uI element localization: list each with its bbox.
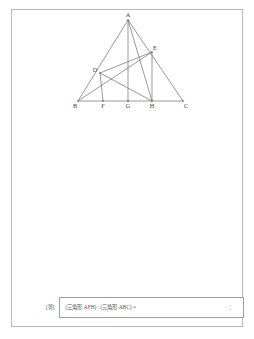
figure-svg: ABCDEFGH	[60, 12, 200, 112]
answer-row: [答] (三角形 AFH) : (三角形 ABC) = ：	[46, 296, 244, 318]
vertex-point-E	[151, 51, 153, 53]
vertex-label-F: F	[101, 102, 105, 109]
vertex-point-B	[77, 100, 79, 102]
answer-tag-label: [答]	[46, 303, 59, 311]
segment-DE	[100, 52, 152, 73]
vertex-point-A	[127, 19, 129, 21]
vertex-label-B: B	[73, 102, 77, 109]
vertex-label-D: D	[93, 66, 98, 73]
line-BE	[78, 52, 152, 101]
vertex-point-D	[99, 72, 101, 74]
worksheet-page: ABCDEFGH [答] (三角形 AFH) : (三角形 ABC) = ：	[0, 0, 254, 339]
perpendicular-DF	[100, 73, 103, 101]
answer-expression: (三角形 AFH) : (三角形 ABC) =	[66, 303, 136, 311]
vertex-label-H: H	[150, 102, 155, 109]
vertex-label-G: G	[126, 102, 131, 109]
figure-segments	[78, 20, 183, 101]
vertex-label-E: E	[153, 44, 157, 51]
triangle-geometry-figure: ABCDEFGH	[60, 12, 200, 112]
side-AB	[78, 20, 128, 101]
segment-DH	[100, 73, 152, 101]
answer-input-box[interactable]: (三角形 AFH) : (三角形 ABC) = ：	[59, 297, 244, 318]
answer-blank: ：	[229, 303, 236, 311]
vertex-label-A: A	[126, 12, 131, 18]
vertex-label-C: C	[184, 102, 188, 109]
side-AC	[128, 20, 183, 101]
